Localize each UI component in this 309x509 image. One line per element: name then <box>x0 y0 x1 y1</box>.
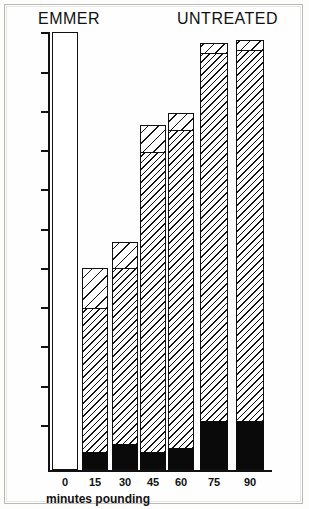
bar-segment-black <box>140 452 166 470</box>
x-axis-tick-label: 30 <box>119 476 131 488</box>
bar-segment-light-hatch <box>200 43 228 53</box>
x-axis-tick-label: 15 <box>89 476 101 488</box>
bar-segment-light-hatch <box>112 242 138 268</box>
bar-segment-dense-hatch <box>168 130 194 448</box>
bar-segment-black <box>236 421 264 470</box>
bar-segment-dense-hatch <box>200 53 228 421</box>
bar-60[interactable] <box>168 113 194 470</box>
bar-segment-light-hatch <box>140 125 166 152</box>
y-axis-tick <box>41 150 50 152</box>
bar-segment-black <box>82 452 108 470</box>
y-axis-tick <box>41 268 50 270</box>
bar-segment-light-hatch <box>82 268 108 308</box>
plot-area: 0153045607590 minutes pounding <box>48 32 272 470</box>
bar-45[interactable] <box>140 125 166 470</box>
bar-segment-dense-hatch <box>236 50 264 421</box>
x-axis-line <box>48 470 272 472</box>
bar-segment-light-hatch <box>236 40 264 50</box>
chart-title-left: EMMER <box>38 10 100 28</box>
bar-segment-dense-hatch <box>82 308 108 452</box>
y-axis-line <box>48 32 50 470</box>
x-axis-tick-label: 60 <box>175 476 187 488</box>
bar-segment-dense-hatch <box>140 152 166 452</box>
figure-container: EMMER UNTREATED 0153045607590 minutes po… <box>0 0 309 509</box>
bar-15[interactable] <box>82 268 108 470</box>
bar-segment-dense-hatch <box>112 268 138 444</box>
bar-0[interactable] <box>52 32 78 470</box>
x-axis-tick-label: 0 <box>62 476 68 488</box>
x-axis-tick-label: 45 <box>147 476 159 488</box>
y-axis-tick <box>41 307 50 309</box>
chart-title-right: UNTREATED <box>177 10 278 28</box>
y-axis-tick <box>41 229 50 231</box>
y-axis-tick <box>41 346 50 348</box>
y-axis-tick <box>41 386 50 388</box>
bar-segment-black <box>200 421 228 470</box>
bar-30[interactable] <box>112 242 138 470</box>
y-axis-tick <box>41 32 50 34</box>
x-axis-tick-label: 75 <box>208 476 220 488</box>
bar-segment-light-hatch <box>168 113 194 130</box>
y-axis-tick <box>41 72 50 74</box>
bar-segment-black <box>168 448 194 470</box>
y-axis-tick <box>41 111 50 113</box>
x-axis-title: minutes pounding <box>46 492 150 506</box>
bar-75[interactable] <box>200 43 228 470</box>
y-axis-tick <box>41 425 50 427</box>
x-axis-tick-label: 90 <box>244 476 256 488</box>
bar-segment-empty <box>52 32 78 470</box>
y-axis-tick <box>41 189 50 191</box>
bar-90[interactable] <box>236 40 264 470</box>
bar-segment-black <box>112 444 138 470</box>
